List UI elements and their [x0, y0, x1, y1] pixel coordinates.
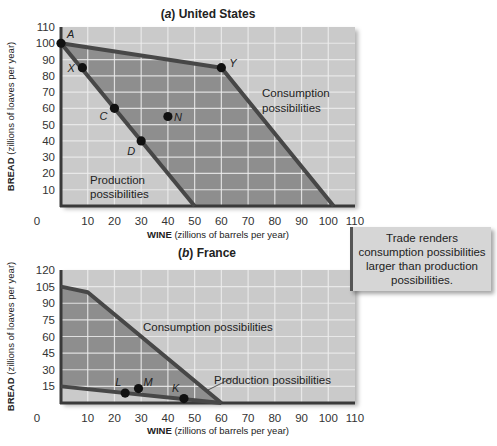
- x-tick-label: 10: [81, 215, 94, 227]
- y-tick-label: 90: [42, 297, 55, 309]
- y-tick-label: 120: [36, 264, 55, 276]
- x-tick-label: 110: [346, 412, 364, 424]
- x-tick-label: 0: [34, 215, 40, 227]
- chart-canvas: (a) United States01020304050607080901001…: [0, 0, 497, 446]
- consumption-possibilities-label: Consumption possibilities: [143, 321, 273, 333]
- y-tick-label: 20: [42, 167, 55, 179]
- point-label: M: [144, 376, 154, 388]
- y-tick-label: 45: [42, 347, 55, 359]
- y-tick-label: 15: [42, 380, 55, 392]
- x-tick-label: 60: [215, 215, 228, 227]
- chart-united-states: (a) United States01020304050607080901001…: [5, 7, 364, 240]
- point-label: C: [99, 110, 107, 122]
- production-possibilities-label: possibilities: [90, 188, 149, 200]
- production-possibilities-label: Production possibilities: [214, 374, 331, 386]
- x-tick-label: 10: [81, 412, 94, 424]
- production-possibilities-label: Production: [90, 174, 145, 186]
- x-tick-label: 0: [34, 412, 40, 424]
- point-k: [179, 394, 188, 403]
- x-tick-label: 60: [215, 412, 228, 424]
- point-d: [137, 136, 146, 145]
- x-tick-label: 80: [268, 412, 281, 424]
- chart-title: (b) France: [178, 246, 236, 260]
- x-tick-label: 100: [319, 215, 338, 227]
- y-tick-label: 90: [42, 54, 55, 66]
- x-tick-label: 110: [346, 215, 364, 227]
- y-tick-label: 60: [42, 331, 55, 343]
- y-tick-label: 10: [42, 184, 55, 196]
- x-tick-label: 90: [295, 412, 308, 424]
- point-m: [134, 384, 143, 393]
- point-c: [110, 104, 119, 113]
- y-tick-label: 70: [42, 86, 55, 98]
- x-tick-label: 50: [188, 412, 201, 424]
- point-l: [121, 388, 130, 397]
- x-axis-label: WINE (zillions of barrels per year): [147, 425, 289, 436]
- point-label: L: [115, 376, 121, 388]
- x-tick-label: 80: [268, 215, 281, 227]
- x-tick-label: 100: [319, 412, 338, 424]
- point-x: [78, 63, 87, 72]
- x-tick-label: 40: [162, 215, 175, 227]
- x-tick-label: 30: [135, 412, 148, 424]
- point-label: D: [127, 145, 135, 157]
- point-label: Y: [229, 57, 237, 69]
- y-tick-label: 40: [42, 135, 55, 147]
- y-tick-label: 60: [42, 102, 55, 114]
- x-tick-label: 90: [295, 215, 308, 227]
- x-tick-label: 20: [108, 215, 121, 227]
- callout-text: Trade renders consumption possibilities …: [353, 231, 491, 287]
- x-axis-label: WINE (zillions of barrels per year): [147, 229, 289, 240]
- x-tick-label: 20: [108, 412, 121, 424]
- y-tick-label: 50: [42, 119, 55, 131]
- y-axis-label: BREAD (zillions of loaves per year): [5, 262, 16, 411]
- point-y: [217, 63, 226, 72]
- point-label: K: [172, 382, 180, 394]
- consumption-possibilities-label: possibilities: [262, 102, 321, 114]
- y-tick-label: 30: [42, 364, 55, 376]
- point-label: X: [66, 62, 75, 74]
- point-a: [56, 39, 65, 48]
- y-tick-label: 30: [42, 151, 55, 163]
- y-tick-label: 110: [37, 21, 55, 33]
- x-tick-label: 40: [162, 412, 175, 424]
- point-label: A: [66, 28, 74, 40]
- y-tick-label: 75: [42, 314, 55, 326]
- y-tick-label: 105: [36, 281, 55, 293]
- point-n: [163, 112, 172, 121]
- consumption-possibilities-label: Consumption: [262, 87, 330, 99]
- x-tick-label: 30: [135, 215, 148, 227]
- x-tick-label: 70: [242, 412, 255, 424]
- x-tick-label: 50: [188, 215, 201, 227]
- x-tick-label: 70: [242, 215, 255, 227]
- y-tick-label: 80: [42, 70, 55, 82]
- trade-callout-box: Trade renders consumption possibilities …: [350, 227, 491, 291]
- chart-france: (b) France010203040506070809010011015304…: [5, 246, 364, 436]
- y-axis-label: BREAD (zillions of loaves per year): [5, 42, 16, 191]
- point-label: N: [174, 111, 182, 123]
- chart-title: (a) United States: [161, 7, 256, 21]
- y-tick-label: 100: [36, 37, 55, 49]
